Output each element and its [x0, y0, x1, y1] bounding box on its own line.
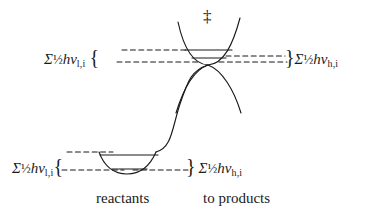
subscript-top-left: l,i [77, 58, 86, 69]
caption-products: to products [203, 190, 270, 207]
crossing-inverted-parabola-right [208, 65, 241, 113]
sigma-glyph-top-right: Σ [295, 51, 304, 67]
label-top-left: Σ½hνl,i{ [44, 47, 99, 69]
reaction-coordinate-curve [156, 65, 208, 152]
sigma-glyph-bottom-right: Σ [199, 160, 208, 176]
caption-reactants: reactants [96, 190, 149, 207]
subscript-bottom-right: h,i [231, 167, 242, 178]
brace-close-top-right: } [285, 46, 295, 68]
diagram-curves [0, 0, 369, 219]
energy-diagram: ‡ Σ½hνl,i{ }Σ½hνh,i Σ½hνl,i{ }Σ½hνh,i re… [0, 0, 369, 219]
brace-close-bottom-right: } [186, 155, 196, 177]
label-bottom-right: }Σ½hνh,i [186, 156, 242, 178]
half-glyph-bottom-right: ½ [208, 161, 218, 176]
half-glyph-bottom-left: ½ [21, 161, 31, 176]
sigma-glyph-top-left: Σ [44, 51, 53, 67]
planck-glyph-bottom-right: h [217, 160, 225, 176]
nu-glyph-top-left: ν [70, 51, 77, 67]
label-top-right: }Σ½hνh,i [285, 47, 338, 69]
subscript-bottom-left: l,i [45, 167, 54, 178]
double-dagger-icon: ‡ [203, 8, 212, 25]
subscript-top-right: h,i [327, 58, 338, 69]
brace-open-bottom-left: { [54, 155, 64, 177]
half-glyph-top-left: ½ [53, 52, 63, 67]
planck-glyph-top-right: h [313, 51, 321, 67]
brace-open-top-left: { [90, 46, 100, 68]
sigma-glyph-bottom-left: Σ [12, 160, 21, 176]
nu-glyph-bottom-left: ν [38, 160, 45, 176]
crossing-inverted-parabola-left [176, 65, 208, 113]
label-bottom-left: Σ½hνl,i{ [12, 156, 63, 178]
half-glyph-top-right: ½ [304, 52, 314, 67]
